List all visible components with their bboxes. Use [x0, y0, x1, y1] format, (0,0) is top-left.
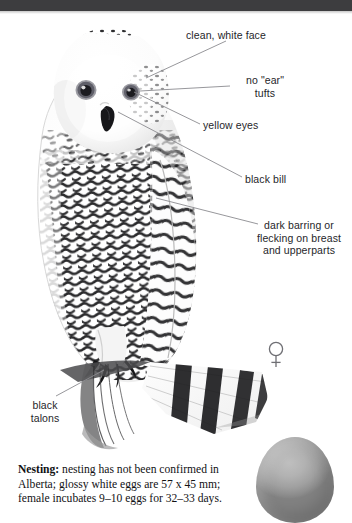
nesting-caption: Nesting: nesting has not been confirmed …: [18, 463, 246, 507]
egg-illustration: [256, 437, 334, 523]
annotation-clean-white-face: clean, white face: [186, 29, 266, 42]
female-symbol-icon: [266, 340, 286, 370]
annotation-no-ear-tufts: no "ear" tufts: [224, 74, 306, 99]
owl-eye-left: [76, 80, 97, 100]
annotation-dark-barring: dark barring or flecking on breast and u…: [250, 219, 348, 257]
nesting-lead-label: Nesting:: [18, 463, 59, 476]
annotation-black-bill: black bill: [245, 173, 286, 186]
owl-eye-right: [122, 83, 140, 100]
owl-tail: [142, 362, 270, 438]
annotation-black-talons: black talons: [20, 399, 70, 424]
annotation-yellow-eyes: yellow eyes: [203, 119, 258, 132]
field-guide-page: clean, white face no "ear" tufts yellow …: [0, 0, 352, 523]
